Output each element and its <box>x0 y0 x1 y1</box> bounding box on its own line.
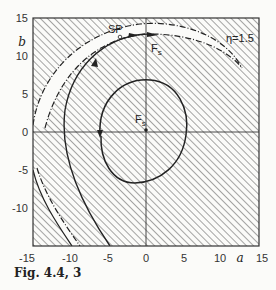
focus-point-marker <box>144 128 148 132</box>
x-tick: -5 <box>103 252 113 264</box>
x-tick: 15 <box>256 252 268 264</box>
figure-caption: Fig. 4.4, 3 <box>14 266 81 280</box>
y-tick: 0 <box>22 126 28 138</box>
x-axis-label: a <box>236 251 243 265</box>
y-tick: 5 <box>22 88 28 100</box>
x-tick: 0 <box>143 252 149 264</box>
x-tick: -10 <box>62 252 78 264</box>
y-tick: -10 <box>12 202 28 214</box>
saddle-point-marker <box>118 35 122 39</box>
y-axis-label: b <box>18 35 26 49</box>
y-tick: 15 <box>16 12 28 24</box>
y-tick: -5 <box>18 164 28 176</box>
x-tick: 10 <box>214 252 226 264</box>
eta-parameter-label: η=1.5 <box>226 32 254 44</box>
saddle-point-label: SP <box>108 23 123 35</box>
y-tick: 10 <box>16 50 28 62</box>
x-tick: 5 <box>181 252 187 264</box>
x-tick: -15 <box>19 252 35 264</box>
phase-plane-diagram: SP Fs Fs η=1.5 15 b 10 5 0 -5 -10 -15 -1… <box>0 0 276 290</box>
